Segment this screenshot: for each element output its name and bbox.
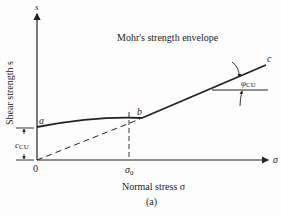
phi-label: φCU bbox=[241, 78, 256, 89]
x-axis-symbol: σ bbox=[273, 154, 279, 165]
mohr-envelope-diagram: s Mohr's strength envelope Shear strengt… bbox=[0, 0, 281, 216]
point-c-label: c bbox=[267, 53, 272, 64]
y-axis-symbol: s bbox=[35, 2, 39, 12]
cohesion-label: cCU bbox=[15, 140, 29, 151]
diagram-canvas: s Mohr's strength envelope Shear strengt… bbox=[0, 0, 281, 216]
origin-label: 0 bbox=[33, 163, 38, 174]
phi-arc-upper bbox=[232, 62, 239, 77]
sigma0-label: σ0 bbox=[125, 164, 134, 177]
envelope-curve-a-b bbox=[37, 118, 142, 127]
diagram-title: Mohr's strength envelope bbox=[117, 32, 219, 43]
x-axis-label: Normal stress σ bbox=[122, 181, 186, 192]
y-axis-label: Shear strength s bbox=[4, 61, 15, 125]
point-a-label: a bbox=[39, 115, 44, 126]
point-b-label: b bbox=[137, 106, 142, 117]
phi-arc-lower bbox=[240, 91, 242, 106]
envelope-line-b-c bbox=[142, 65, 266, 118]
figure-caption: (a) bbox=[146, 196, 157, 208]
